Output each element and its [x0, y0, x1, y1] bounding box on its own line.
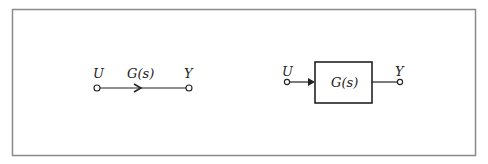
output-node — [186, 85, 192, 91]
output-node — [397, 79, 402, 84]
branch-label: G(s) — [127, 66, 154, 81]
input-node — [284, 79, 289, 84]
input-label: U — [93, 66, 105, 81]
input-node — [94, 85, 100, 91]
input-label: U — [282, 64, 294, 79]
output-label: Y — [395, 64, 405, 79]
block-diagram: U G(s) Y — [282, 62, 405, 103]
input-arrow-icon — [308, 78, 315, 86]
signal-flow-graph: U G(s) Y — [93, 66, 194, 92]
diagram-canvas: U G(s) Y U G(s) Y — [0, 0, 488, 164]
figure-frame — [13, 10, 476, 156]
block-label: G(s) — [331, 75, 358, 90]
output-label: Y — [184, 66, 194, 81]
